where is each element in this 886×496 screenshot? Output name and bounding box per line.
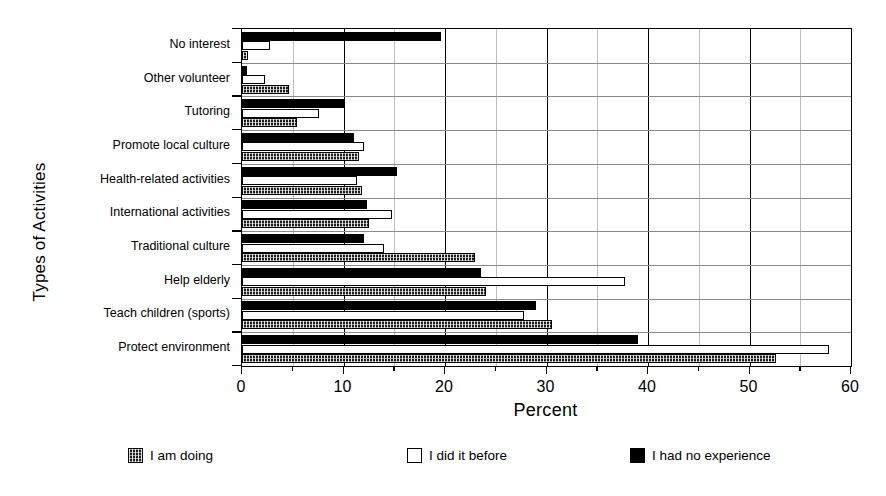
bar — [242, 41, 270, 50]
bar — [242, 301, 536, 310]
category-label: International activities — [30, 206, 230, 219]
x-axis-tick — [343, 366, 344, 374]
category-label: Traditional culture — [30, 240, 230, 253]
bar-group — [242, 332, 851, 366]
x-axis-tick-minor — [698, 366, 699, 371]
x-axis-tick-label: 50 — [729, 378, 769, 396]
x-axis-tick-minor — [596, 366, 597, 371]
legend-label: I am doing — [150, 448, 213, 463]
category-label: Protect environment — [30, 341, 230, 354]
y-axis-tick — [232, 95, 241, 96]
bar — [242, 133, 354, 142]
bar — [242, 32, 441, 41]
x-axis-ticks — [241, 366, 850, 378]
bar-group — [242, 265, 851, 299]
y-axis-tick — [232, 264, 241, 265]
bar — [242, 210, 392, 219]
chart-legend: I am doingI did it beforeI had no experi… — [0, 448, 886, 478]
bar — [242, 176, 357, 185]
y-axis-tick — [232, 331, 241, 332]
legend-item: I am doing — [128, 448, 213, 463]
bar — [242, 51, 248, 60]
x-axis-title: Percent — [241, 400, 850, 421]
legend-swatch-hatch — [128, 448, 143, 463]
bar — [242, 354, 776, 363]
x-axis-tick-minor — [393, 366, 394, 371]
y-axis-tick — [232, 230, 241, 231]
x-axis-tick-minor — [495, 366, 496, 371]
bar — [242, 118, 297, 127]
y-axis-tick — [232, 62, 241, 63]
y-axis-tick — [232, 365, 241, 366]
bar — [242, 75, 265, 84]
y-axis-tick — [232, 28, 241, 29]
y-axis-tick — [232, 129, 241, 130]
bar — [242, 311, 524, 320]
bar — [242, 200, 367, 209]
x-axis-tick-label: 20 — [424, 378, 464, 396]
x-axis-tick-label: 30 — [526, 378, 566, 396]
x-axis-tick — [444, 366, 445, 374]
bar — [242, 277, 625, 286]
x-axis-tick — [647, 366, 648, 374]
plot-area — [241, 28, 852, 367]
bar — [242, 142, 364, 151]
x-axis-tick-label: 40 — [627, 378, 667, 396]
bar — [242, 335, 638, 344]
bar-group — [242, 198, 851, 232]
y-axis-tick — [232, 298, 241, 299]
x-axis-tick — [749, 366, 750, 374]
legend-label: I had no experience — [652, 448, 771, 463]
bar — [242, 99, 344, 108]
bar — [242, 268, 481, 277]
category-label: No interest — [30, 38, 230, 51]
x-axis-tick-label: 10 — [323, 378, 363, 396]
bar — [242, 244, 384, 253]
legend-item: I did it before — [407, 448, 507, 463]
bar-group — [242, 231, 851, 265]
x-axis-tick-labels: 0102030405060 — [241, 378, 850, 400]
bar-group — [242, 130, 851, 164]
bar — [242, 287, 486, 296]
bar-group — [242, 164, 851, 198]
category-label: Teach children (sports) — [30, 307, 230, 320]
category-label: Other volunteer — [30, 72, 230, 85]
category-label: Promote local culture — [30, 139, 230, 152]
y-axis-tick — [232, 197, 241, 198]
bar — [242, 320, 552, 329]
bar — [242, 66, 247, 75]
bar-group — [242, 29, 851, 63]
category-label-list: No interestOther volunteerTutoringPromot… — [38, 28, 236, 365]
x-axis-tick — [850, 366, 851, 374]
category-label: Help elderly — [30, 274, 230, 287]
x-axis-tick-label: 60 — [830, 378, 870, 396]
category-label: Tutoring — [30, 105, 230, 118]
legend-label: I did it before — [429, 448, 507, 463]
x-axis-tick — [546, 366, 547, 374]
x-axis-tick-label: 0 — [221, 378, 261, 396]
bar — [242, 152, 359, 161]
bar-group — [242, 96, 851, 130]
legend-item: I had no experience — [630, 448, 771, 463]
bar — [242, 345, 829, 354]
bar-group — [242, 63, 851, 97]
x-axis-tick-minor — [292, 366, 293, 371]
bar — [242, 167, 397, 176]
category-label: Health-related activities — [30, 173, 230, 186]
bar-chart: Types of Activities No interestOther vol… — [0, 0, 886, 496]
x-axis-tick — [241, 366, 242, 374]
bar — [242, 186, 362, 195]
legend-swatch-black — [630, 448, 645, 463]
legend-swatch-white — [407, 448, 422, 463]
y-axis-tick — [232, 163, 241, 164]
bar — [242, 219, 369, 228]
bar — [242, 109, 319, 118]
x-axis-tick-minor — [799, 366, 800, 371]
bar — [242, 253, 475, 262]
bar-group — [242, 299, 851, 333]
bar — [242, 85, 289, 94]
bar — [242, 234, 364, 243]
